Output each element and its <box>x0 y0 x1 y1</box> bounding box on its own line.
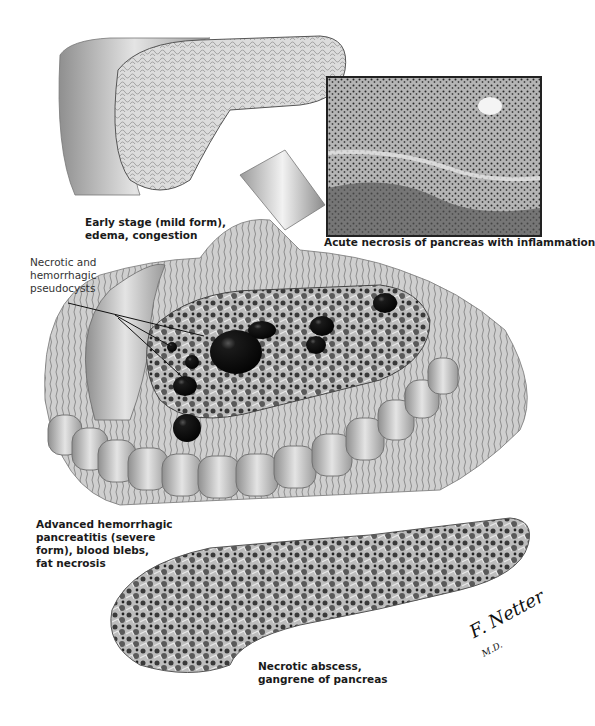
inset-caption: Acute necrosis of pancreas with inflamma… <box>324 236 595 248</box>
label-necrotic-abscess: Necrotic abscess, gangrene of pancreas <box>258 660 388 686</box>
early-stage-pancreas <box>59 36 346 195</box>
advanced-pancreatitis <box>45 219 528 505</box>
retracted-stomach <box>240 150 325 230</box>
label-early-stage: Early stage (mild form), edema, congesti… <box>85 216 226 242</box>
label-pseudocysts: Necrotic and hemorrhagic pseudocysts <box>30 256 97 295</box>
necrotic-abscess-pancreas <box>111 518 530 673</box>
histology-inset <box>326 76 542 237</box>
label-advanced-pancreatitis: Advanced hemorrhagic pancreatitis (sever… <box>36 518 173 570</box>
